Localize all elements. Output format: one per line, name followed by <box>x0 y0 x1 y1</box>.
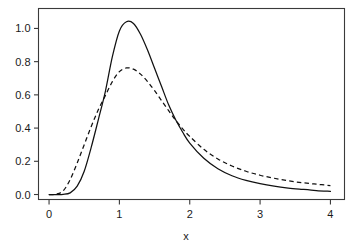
density-plot: 0.00.20.40.60.81.0 01234 x <box>0 0 356 249</box>
data-curve-dashed <box>49 68 330 195</box>
y-tick-label: 0.6 <box>15 89 30 101</box>
y-tick-label: 0.4 <box>15 122 30 134</box>
x-axis-ticks <box>49 200 330 205</box>
x-tick-label: 4 <box>327 208 333 220</box>
y-axis-ticks <box>34 28 39 194</box>
x-tick-label: 0 <box>46 208 52 220</box>
y-tick-label: 1.0 <box>15 22 30 34</box>
chart-container: 0.00.20.40.60.81.0 01234 x <box>0 0 356 249</box>
x-axis-tick-labels: 01234 <box>46 208 334 220</box>
y-tick-label: 0.8 <box>15 56 30 68</box>
x-tick-label: 1 <box>116 208 122 220</box>
x-tick-label: 3 <box>257 208 263 220</box>
y-tick-label: 0.2 <box>15 155 30 167</box>
data-curve-solid <box>49 21 330 194</box>
x-tick-label: 2 <box>187 208 193 220</box>
x-axis-title: x <box>183 230 189 242</box>
y-tick-label: 0.0 <box>15 189 30 201</box>
y-axis-tick-labels: 0.00.20.40.60.81.0 <box>15 22 30 200</box>
